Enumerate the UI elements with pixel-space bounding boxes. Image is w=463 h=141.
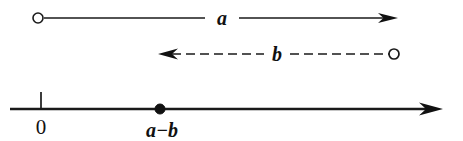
vector-a-label: a bbox=[217, 7, 227, 29]
vector-b-group: b bbox=[158, 43, 399, 65]
number-line-group: 0 a−b bbox=[10, 92, 443, 141]
vector-number-line-figure: a b 0 a−b bbox=[0, 0, 463, 141]
vector-b-label: b bbox=[272, 43, 282, 65]
figure-canvas: a b 0 a−b bbox=[0, 0, 463, 141]
vector-b-open-circle-endpoint bbox=[389, 49, 399, 59]
number-line-point-a-minus-b-label: a−b bbox=[146, 119, 178, 141]
vector-a-open-circle-endpoint bbox=[33, 13, 43, 23]
vector-a-group: a bbox=[33, 7, 398, 29]
number-line-point-a-minus-b-dot bbox=[155, 104, 165, 114]
number-line-tick-zero-label: 0 bbox=[36, 115, 47, 139]
